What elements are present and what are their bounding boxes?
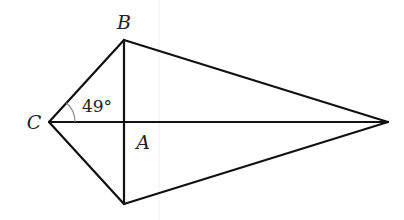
angle-arc-c bbox=[67, 103, 76, 122]
point-label-a: A bbox=[134, 131, 150, 153]
vertex-label-b: B bbox=[116, 11, 131, 33]
kite-diagram: B C A 49° bbox=[0, 0, 404, 220]
edge-right-bottom bbox=[124, 122, 388, 204]
edge-bottom-c bbox=[49, 122, 124, 204]
edge-b-right bbox=[124, 40, 388, 122]
vertex-label-c: C bbox=[27, 111, 42, 133]
angle-label: 49° bbox=[82, 96, 112, 116]
